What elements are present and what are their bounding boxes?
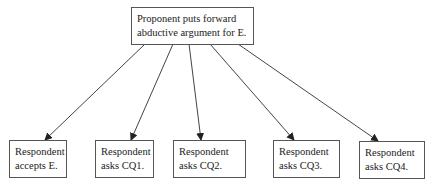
child-node-cq2: Respondent asks CQ2.	[173, 140, 246, 178]
child-node-line-2: asks CQ3.	[279, 159, 334, 173]
child-node-line-1: Respondent	[365, 146, 419, 160]
arrow-edge-cq1	[131, 44, 173, 140]
child-node-cq1: Respondent asks CQ1.	[95, 140, 154, 178]
child-node-line-2: asks CQ2.	[179, 159, 240, 173]
arrow-edge-cq2	[189, 44, 201, 140]
root-node-proponent: Proponent puts forward abductive argumen…	[131, 7, 254, 45]
root-node-line-1: Proponent puts forward	[137, 12, 248, 26]
arrow-edge-cq4	[238, 44, 378, 141]
root-node-line-2: abductive argument for E.	[137, 26, 248, 40]
child-node-cq3: Respondent asks CQ3.	[273, 140, 340, 178]
child-node-cq4: Respondent asks CQ4.	[359, 141, 425, 179]
child-node-line-2: accepts E.	[15, 159, 61, 173]
child-node-accepts: Respondent accepts E.	[9, 140, 67, 178]
child-node-line-2: asks CQ4.	[365, 160, 419, 174]
child-node-line-1: Respondent	[279, 145, 334, 159]
child-node-line-2: asks CQ1.	[101, 159, 148, 173]
child-node-line-1: Respondent	[101, 145, 148, 159]
arrow-edge-cq3	[210, 44, 294, 140]
child-node-line-1: Respondent	[179, 145, 240, 159]
child-node-line-1: Respondent	[15, 145, 61, 159]
arrow-edge-accepts	[45, 44, 145, 140]
